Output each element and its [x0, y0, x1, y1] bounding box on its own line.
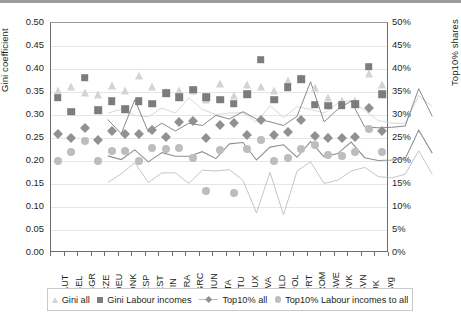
data-point-square — [203, 93, 211, 101]
legend-label: Gini all — [62, 295, 90, 305]
data-point-square — [122, 105, 130, 113]
data-point-triangle — [94, 90, 102, 98]
data-point-diamond — [161, 132, 171, 142]
y-tick-right: 35% — [392, 86, 436, 96]
data-point-square — [149, 100, 157, 108]
y-tick-left: 0.45 — [4, 40, 44, 50]
y-tick-left: 0.40 — [4, 63, 44, 73]
data-point-square — [162, 90, 170, 98]
data-point-square — [243, 91, 251, 99]
data-point-diamond — [147, 125, 157, 135]
gridline — [51, 115, 387, 116]
gridline — [51, 184, 387, 185]
data-point-circle — [365, 125, 373, 133]
y-tick-left: 0.05 — [4, 224, 44, 234]
data-point-circle — [54, 157, 62, 165]
data-point-diamond — [188, 116, 198, 126]
x-tickmark — [388, 252, 389, 256]
data-point-diamond — [350, 132, 360, 142]
data-point-square — [311, 101, 319, 109]
y-tick-right: 15% — [392, 178, 436, 188]
y-tick-right: 40% — [392, 63, 436, 73]
y-tick-right: 30% — [392, 109, 436, 119]
gridline — [51, 207, 387, 208]
data-point-square — [257, 56, 265, 64]
data-point-square — [351, 100, 359, 108]
y-tick-right: 10% — [392, 201, 436, 211]
gridline — [51, 46, 387, 47]
data-point-triangle — [257, 83, 265, 91]
data-point-circle — [243, 145, 251, 153]
y-tick-right: 0% — [392, 247, 436, 257]
legend-item[interactable]: Gini all — [52, 295, 90, 305]
data-point-circle — [202, 187, 210, 195]
data-point-triangle — [67, 83, 75, 91]
data-point-diamond — [66, 133, 76, 143]
data-point-square — [270, 96, 278, 104]
legend-label: Gini Labour incomes — [107, 295, 191, 305]
data-point-square — [324, 102, 332, 110]
legend-item[interactable]: Top10% Labour incomes to all — [275, 295, 408, 305]
legend-label: Top10% Labour incomes to all — [285, 295, 408, 305]
data-point-triangle — [108, 82, 116, 90]
data-point-square — [176, 93, 184, 101]
plot-area — [50, 22, 388, 252]
y-tick-left: 0.15 — [4, 178, 44, 188]
chart-legend: Gini allGini Labour incomesTop10% allTop… — [47, 288, 413, 311]
gridline — [51, 69, 387, 70]
data-point-circle — [378, 148, 386, 156]
data-point-diamond — [93, 135, 103, 145]
data-point-triangle — [230, 91, 238, 99]
data-point-diamond — [107, 126, 117, 136]
data-point-diamond — [80, 123, 90, 133]
data-point-triangle — [121, 87, 129, 95]
legend-item[interactable]: Top10% all — [199, 295, 267, 305]
data-point-circle — [162, 145, 170, 153]
data-point-circle — [311, 141, 319, 149]
data-point-square — [297, 75, 305, 83]
data-point-square — [230, 100, 238, 108]
data-point-triangle — [270, 87, 278, 95]
data-point-circle — [257, 136, 265, 144]
data-point-diamond — [256, 115, 266, 125]
y-tick-left: 0.50 — [4, 17, 44, 27]
data-point-diamond — [283, 127, 293, 137]
data-point-diamond — [323, 134, 333, 144]
data-point-diamond — [296, 115, 306, 125]
gridline — [51, 230, 387, 231]
y-tick-right: 25% — [392, 132, 436, 142]
data-point-diamond — [202, 133, 212, 143]
legend-triangle-icon — [52, 297, 58, 303]
data-point-square — [95, 106, 103, 114]
data-point-square — [54, 94, 62, 102]
y-tick-right: 5% — [392, 224, 436, 234]
data-point-triangle — [324, 94, 332, 102]
page-top-rule — [0, 0, 461, 3]
data-point-diamond — [215, 120, 225, 130]
data-point-square — [189, 86, 197, 94]
y-tick-left: 0.00 — [4, 247, 44, 257]
data-point-circle — [297, 145, 305, 153]
data-point-triangle — [81, 89, 89, 97]
data-point-circle — [108, 147, 116, 155]
data-point-circle — [148, 144, 156, 152]
y-tick-right: 20% — [392, 155, 436, 165]
data-point-circle — [230, 189, 238, 197]
data-point-square — [365, 63, 373, 71]
data-point-circle — [94, 157, 102, 165]
data-point-circle — [135, 157, 143, 165]
y-tick-left: 0.20 — [4, 155, 44, 165]
data-point-square — [135, 97, 143, 105]
data-point-square — [108, 97, 116, 105]
data-point-square — [338, 102, 346, 110]
y-axis-right-title: Top10% shares — [449, 0, 460, 86]
data-point-circle — [324, 151, 332, 159]
legend-label: Top10% all — [222, 295, 267, 305]
data-point-diamond — [174, 117, 184, 127]
data-point-triangle — [311, 84, 319, 92]
y-tick-left: 0.10 — [4, 201, 44, 211]
legend-circle-icon — [275, 296, 281, 302]
data-point-diamond — [364, 103, 374, 113]
legend-item[interactable]: Gini Labour incomes — [97, 295, 191, 305]
data-point-triangle — [148, 83, 156, 91]
